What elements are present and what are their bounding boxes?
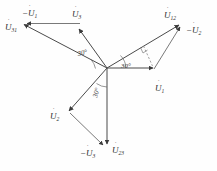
label-minus-u3-sub: 3	[92, 153, 96, 159]
label-u12-dot: ˙	[167, 5, 169, 13]
label-u23-dot: ˙	[115, 140, 117, 148]
label-minus-u1: −U1 ˙	[22, 3, 38, 20]
label-u23: U23 ˙	[112, 140, 124, 157]
label-minus-u1-sub: 1	[35, 13, 38, 19]
label-minus-u1-dot: ˙	[29, 3, 31, 11]
phasor-diagram-svg: 30° 30° 30° −U1 ˙ U31 ˙ U3 ˙	[0, 0, 217, 171]
label-u12: U12 ˙	[164, 5, 176, 22]
label-u12-sub: 12	[171, 15, 177, 21]
phasor-diagram-canvas: 30° 30° 30° −U1 ˙ U31 ˙ U3 ˙	[0, 0, 217, 171]
angle-label-right: 30°	[120, 62, 131, 70]
right-angle-tick	[141, 48, 148, 54]
label-u1: U1 ˙	[155, 78, 165, 95]
label-u2: U2 ˙	[50, 106, 60, 123]
label-u3-sub: 3	[78, 14, 82, 20]
label-minus-u3: −U3 ˙	[80, 143, 96, 160]
label-minus-u2: −U2 ˙	[186, 20, 202, 37]
label-u3-dot: ˙	[75, 4, 77, 12]
label-u1-sub: 1	[162, 88, 165, 94]
perpendicular-dashed-line	[144, 46, 153, 66]
label-u2-dot: ˙	[53, 106, 55, 114]
construction-group	[141, 46, 153, 66]
label-u23-sub: 23	[119, 150, 125, 156]
segment-minus-u2	[154, 27, 180, 69]
label-minus-u2-dot: ˙	[193, 20, 195, 28]
angle-label-group: 30° 30° 30°	[76, 48, 131, 99]
label-minus-u3-dot: ˙	[87, 143, 89, 151]
angle-label-lower: 30°	[91, 87, 102, 100]
label-u3: U3 ˙	[72, 4, 82, 21]
phasor-label-group: −U1 ˙ U31 ˙ U3 ˙ U12 ˙	[5, 3, 202, 160]
label-u2-sub: 2	[57, 116, 60, 122]
label-u31: U31 ˙	[5, 17, 17, 34]
label-u1-dot: ˙	[158, 78, 160, 86]
label-u31-dot: ˙	[8, 17, 10, 25]
angle-arc-lower	[97, 84, 108, 88]
vector-u31	[24, 25, 107, 69]
segment-minus-u3	[70, 113, 103, 145]
label-u31-sub: 31	[11, 27, 18, 33]
label-minus-u2-sub: 2	[199, 30, 202, 36]
